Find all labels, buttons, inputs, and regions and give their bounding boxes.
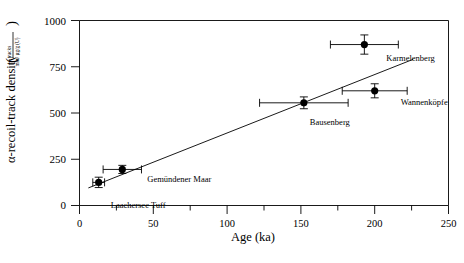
data-points-layer: Laachersee TuffGemündener MaarBausenber…: [93, 35, 448, 210]
data-point-label: Bausenberg: [310, 117, 351, 127]
y-axis-ticks: [71, 21, 80, 206]
x-tick-50: 50: [148, 218, 159, 229]
y-axis-paren-close: ): [3, 21, 20, 26]
regression-line: [88, 59, 413, 188]
data-point: Wannenköpfe: [342, 84, 448, 107]
y-tick-500: 500: [50, 107, 67, 119]
x-tick-150: 150: [293, 218, 309, 229]
data-point-marker: [371, 87, 378, 94]
y-axis-units-denominator: mm² µg/g (U): [14, 37, 21, 66]
data-point-label: Karmelenberg: [386, 53, 435, 63]
data-point-marker: [119, 166, 126, 173]
y-tick-750: 750: [50, 61, 67, 73]
data-point: Karmelenberg: [330, 35, 435, 63]
y-tick-1000: 1000: [44, 15, 67, 27]
data-point-marker: [361, 41, 368, 48]
y-tick-250: 250: [50, 153, 67, 165]
chart-figure: 0 250 500 750 1000 0 50 100 150 200 250 …: [0, 0, 464, 263]
y-tick-0: 0: [61, 199, 67, 211]
x-tick-200: 200: [367, 218, 383, 229]
x-tick-0: 0: [77, 218, 82, 229]
data-point-label: Wannenköpfe: [401, 97, 448, 107]
y-axis-tick-labels: 0 250 500 750 1000: [44, 15, 67, 212]
y-axis-title: α-recoil-track density: [4, 55, 18, 163]
data-point-marker: [300, 99, 307, 106]
y-axis-units-numerator: tracks: [6, 46, 12, 58]
data-point: Bausenberg: [260, 97, 351, 127]
y-axis-title-group: α-recoil-track density ( ) tracks mm² µg…: [3, 21, 21, 163]
data-point: Gemündener Maar: [103, 165, 211, 184]
scatter-plot-svg: 0 250 500 750 1000 0 50 100 150 200 250 …: [0, 0, 464, 263]
x-tick-100: 100: [219, 218, 235, 229]
x-axis-title: Age (ka): [231, 230, 275, 244]
x-axis-tick-labels: 0 50 100 150 200 250: [77, 218, 457, 229]
data-point-marker: [95, 179, 102, 186]
x-tick-250: 250: [441, 218, 457, 229]
plot-frame: [80, 21, 449, 206]
data-point-label: Gemündener Maar: [147, 174, 211, 184]
data-point-label: Laachersee Tuff: [111, 200, 166, 210]
